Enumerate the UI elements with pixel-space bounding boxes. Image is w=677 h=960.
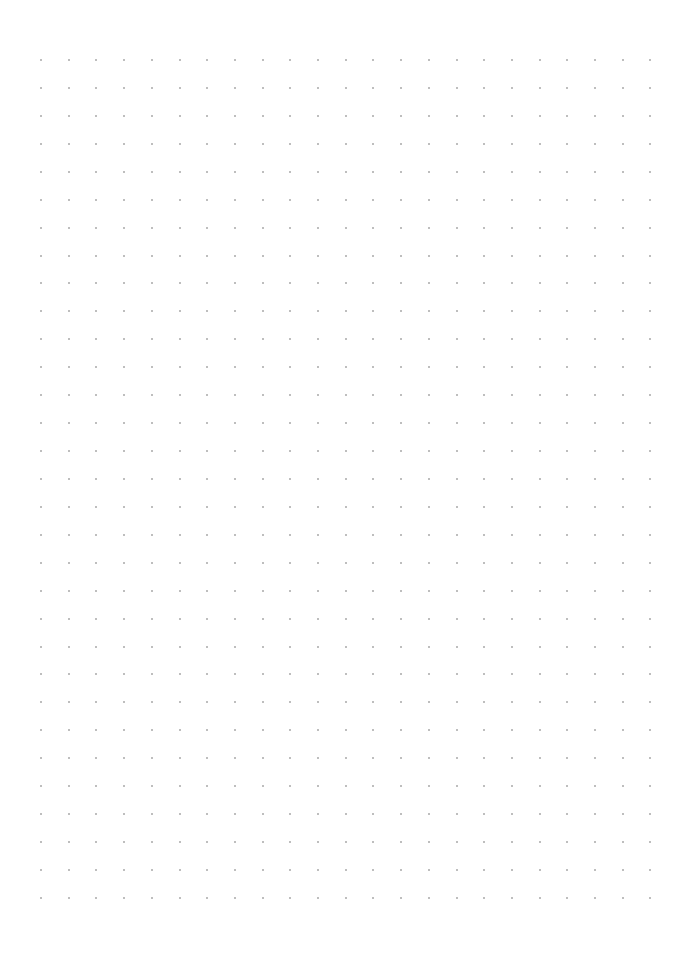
grid-dot — [539, 338, 541, 340]
grid-dot — [428, 115, 430, 117]
grid-dot — [594, 282, 596, 284]
grid-dot — [289, 590, 291, 592]
grid-dot — [123, 394, 125, 396]
grid-dot — [317, 869, 319, 871]
grid-dot — [372, 255, 374, 257]
grid-dot — [483, 590, 485, 592]
grid-dot — [289, 478, 291, 480]
grid-dot — [234, 618, 236, 620]
grid-dot — [594, 869, 596, 871]
grid-dot — [400, 450, 402, 452]
grid-dot — [511, 59, 513, 61]
grid-dot — [345, 562, 347, 564]
grid-dot — [594, 478, 596, 480]
grid-dot — [456, 115, 458, 117]
grid-dot — [317, 115, 319, 117]
grid-dot — [511, 422, 513, 424]
grid-dot — [68, 255, 70, 257]
grid-dot — [151, 841, 153, 843]
grid-dot — [151, 59, 153, 61]
grid-dot — [511, 701, 513, 703]
grid-dot — [40, 618, 42, 620]
grid-dot — [400, 143, 402, 145]
grid-dot — [566, 422, 568, 424]
grid-dot — [95, 785, 97, 787]
grid-dot — [622, 422, 624, 424]
grid-dot — [566, 478, 568, 480]
grid-dot — [483, 227, 485, 229]
grid-dot — [539, 366, 541, 368]
grid-dot — [317, 757, 319, 759]
grid-dot — [649, 171, 651, 173]
grid-dot — [262, 646, 264, 648]
grid-dot — [151, 171, 153, 173]
grid-dot — [456, 590, 458, 592]
grid-dot — [151, 115, 153, 117]
grid-dot — [566, 394, 568, 396]
grid-dot — [179, 310, 181, 312]
grid-dot — [594, 757, 596, 759]
grid-dot — [456, 310, 458, 312]
grid-dot — [289, 171, 291, 173]
grid-dot — [262, 171, 264, 173]
grid-dot — [400, 255, 402, 257]
grid-dot — [511, 785, 513, 787]
grid-dot — [372, 534, 374, 536]
grid-dot — [206, 534, 208, 536]
grid-dot — [511, 729, 513, 731]
grid-dot — [68, 534, 70, 536]
grid-dot — [566, 366, 568, 368]
grid-dot — [317, 199, 319, 201]
grid-dot — [594, 534, 596, 536]
grid-dot — [649, 87, 651, 89]
grid-dot — [123, 646, 125, 648]
grid-dot — [123, 59, 125, 61]
grid-dot — [206, 450, 208, 452]
grid-dot — [206, 87, 208, 89]
grid-dot — [594, 506, 596, 508]
grid-dot — [511, 394, 513, 396]
grid-dot — [400, 673, 402, 675]
grid-dot — [372, 422, 374, 424]
grid-dot — [151, 227, 153, 229]
grid-dot — [234, 841, 236, 843]
grid-dot — [594, 366, 596, 368]
grid-dot — [400, 869, 402, 871]
grid-dot — [649, 869, 651, 871]
grid-dot — [262, 366, 264, 368]
grid-dot — [234, 310, 236, 312]
grid-dot — [234, 785, 236, 787]
grid-dot — [289, 534, 291, 536]
grid-dot — [179, 757, 181, 759]
grid-dot — [483, 478, 485, 480]
grid-dot — [68, 562, 70, 564]
grid-dot — [206, 618, 208, 620]
grid-dot — [317, 450, 319, 452]
grid-dot — [428, 813, 430, 815]
grid-dot — [262, 813, 264, 815]
grid-dot — [622, 310, 624, 312]
grid-dot — [317, 59, 319, 61]
grid-dot — [428, 562, 430, 564]
grid-dot — [400, 590, 402, 592]
grid-dot — [345, 255, 347, 257]
grid-dot — [68, 673, 70, 675]
grid-dot — [206, 255, 208, 257]
grid-dot — [456, 534, 458, 536]
grid-dot — [539, 115, 541, 117]
grid-dot — [539, 813, 541, 815]
grid-dot — [566, 450, 568, 452]
grid-dot — [594, 897, 596, 899]
grid-dot — [206, 171, 208, 173]
grid-dot — [539, 673, 541, 675]
grid-dot — [68, 87, 70, 89]
grid-dot — [234, 171, 236, 173]
grid-dot — [566, 869, 568, 871]
grid-dot — [68, 450, 70, 452]
grid-dot — [372, 813, 374, 815]
grid-dot — [317, 841, 319, 843]
grid-dot — [539, 59, 541, 61]
grid-dot — [428, 366, 430, 368]
grid-dot — [289, 729, 291, 731]
grid-dot — [123, 701, 125, 703]
